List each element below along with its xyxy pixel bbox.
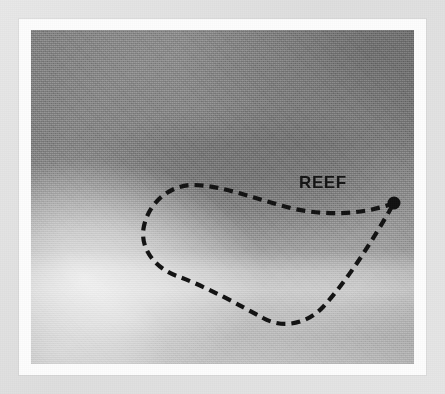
annotation-layer: REEF bbox=[31, 30, 414, 364]
reef-label: REEF bbox=[299, 173, 347, 192]
reef-boundary-outline bbox=[143, 185, 394, 324]
seabed-photograph: REEF bbox=[31, 30, 414, 364]
figure-root: REEF bbox=[0, 0, 445, 394]
reef-endpoint-marker bbox=[388, 197, 401, 210]
photo-frame: REEF bbox=[19, 19, 426, 375]
